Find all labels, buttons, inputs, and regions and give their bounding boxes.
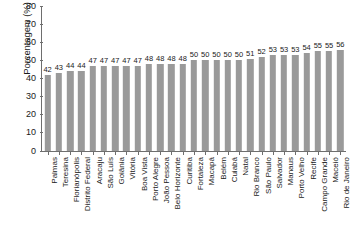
bar bbox=[303, 53, 309, 151]
y-axis-tick-label: 60 bbox=[14, 38, 36, 47]
bar-value-label: 48 bbox=[145, 55, 153, 63]
x-axis-tick-label: Natal bbox=[242, 157, 250, 176]
bar bbox=[236, 60, 242, 151]
bar bbox=[225, 60, 231, 151]
x-axis-tick-mark bbox=[194, 152, 195, 155]
x-axis-tick-mark bbox=[205, 152, 206, 155]
bar-value-label: 54 bbox=[302, 44, 310, 52]
bar bbox=[134, 66, 140, 151]
y-axis-tick-label: 70 bbox=[14, 20, 36, 29]
bar bbox=[315, 51, 321, 151]
bar-value-label: 53 bbox=[291, 46, 299, 54]
bar bbox=[191, 60, 197, 151]
x-axis-tick-mark bbox=[273, 152, 274, 155]
bar-value-label: 56 bbox=[336, 41, 344, 49]
bar-value-label: 44 bbox=[77, 62, 85, 70]
bar-slot: 47 bbox=[110, 6, 121, 151]
bar bbox=[202, 60, 208, 151]
x-axis-tick-mark bbox=[149, 152, 150, 155]
y-axis-tick-label: 30 bbox=[14, 92, 36, 101]
x-axis-tick-label: Belém bbox=[220, 157, 228, 180]
bar-slot: 48 bbox=[143, 6, 154, 151]
x-axis-tick-label: Recife bbox=[310, 157, 318, 180]
x-axis-tick-mark bbox=[81, 152, 82, 155]
bar-value-label: 53 bbox=[269, 46, 277, 54]
bar bbox=[180, 64, 186, 151]
y-axis-ticks: 01020304050607080 bbox=[18, 6, 40, 151]
bar bbox=[44, 75, 50, 151]
bar bbox=[89, 66, 95, 151]
bar bbox=[213, 60, 219, 151]
bar-slot: 48 bbox=[155, 6, 166, 151]
x-axis-tick-label: Salvador bbox=[276, 157, 284, 189]
bar-value-label: 52 bbox=[257, 48, 265, 56]
x-axis-tick-mark bbox=[70, 152, 71, 155]
x-axis-labels: PalmasTeresinaFlorianópolisDistrito Fede… bbox=[42, 152, 346, 242]
x-axis-tick-mark bbox=[295, 152, 296, 155]
y-axis-tick-label: 50 bbox=[14, 56, 36, 65]
x-axis-tick-label: Belo Horizonte bbox=[174, 157, 182, 209]
x-axis-tick-label: São Luís bbox=[107, 157, 115, 189]
x-axis-tick-label: Rio de Janeiro bbox=[343, 157, 351, 209]
bar-slot: 50 bbox=[200, 6, 211, 151]
bar bbox=[78, 71, 84, 151]
y-axis-tick-label: 10 bbox=[14, 128, 36, 137]
bar bbox=[281, 55, 287, 151]
bar-slot: 56 bbox=[335, 6, 346, 151]
bar-slot: 54 bbox=[301, 6, 312, 151]
bar bbox=[123, 66, 129, 151]
x-axis-tick-mark bbox=[115, 152, 116, 155]
bar-slot: 44 bbox=[76, 6, 87, 151]
x-axis-tick-mark bbox=[183, 152, 184, 155]
x-axis-tick-mark bbox=[284, 152, 285, 155]
bar bbox=[337, 50, 343, 152]
bar bbox=[157, 64, 163, 151]
bar bbox=[56, 73, 62, 151]
x-axis-tick-label: Porto Velho bbox=[298, 157, 306, 198]
x-axis-tick-label: Porto Alegre bbox=[152, 157, 160, 201]
x-axis-tick-mark bbox=[160, 152, 161, 155]
y-axis-tick-label: 40 bbox=[14, 74, 36, 83]
bar-value-label: 48 bbox=[156, 55, 164, 63]
x-axis-tick-mark bbox=[48, 152, 49, 155]
bar-slot: 42 bbox=[42, 6, 53, 151]
x-axis-tick-label: Manaus bbox=[287, 157, 295, 185]
bar bbox=[326, 51, 332, 151]
x-axis-tick-label: Boa Vista bbox=[141, 157, 149, 191]
x-axis-tick-mark bbox=[340, 152, 341, 155]
bar-slot: 53 bbox=[290, 6, 301, 151]
x-axis-tick-mark bbox=[239, 152, 240, 155]
bar-slot: 47 bbox=[87, 6, 98, 151]
x-axis-tick-label: Rio Branco bbox=[253, 157, 261, 197]
y-axis-tick-label: 80 bbox=[14, 2, 36, 11]
bar-slot: 47 bbox=[98, 6, 109, 151]
x-axis-tick-label: Distrito Federal bbox=[84, 157, 92, 211]
bar-value-label: 43 bbox=[55, 64, 63, 72]
bar-slot: 55 bbox=[323, 6, 334, 151]
x-axis-tick-label: Florianópolis bbox=[73, 157, 81, 202]
x-axis-tick-label: Maceió bbox=[332, 157, 340, 183]
x-axis-tick-label: Vitória bbox=[129, 157, 137, 180]
bar-value-label: 55 bbox=[325, 42, 333, 50]
bar-value-label: 51 bbox=[246, 50, 254, 58]
bar-slot: 51 bbox=[245, 6, 256, 151]
x-axis-tick-mark bbox=[93, 152, 94, 155]
bar-value-label: 47 bbox=[88, 57, 96, 65]
x-axis-tick-label: Curitiba bbox=[186, 157, 194, 185]
bar-slot: 53 bbox=[267, 6, 278, 151]
x-axis-tick-label: Goiânia bbox=[118, 157, 126, 185]
x-axis-tick-mark bbox=[171, 152, 172, 155]
bar bbox=[168, 64, 174, 151]
x-axis-tick-mark bbox=[318, 152, 319, 155]
x-axis-tick-label: Fortaleza bbox=[197, 157, 205, 190]
bar bbox=[258, 57, 264, 151]
bar bbox=[67, 71, 73, 151]
bar bbox=[146, 64, 152, 151]
bar-slot: 44 bbox=[65, 6, 76, 151]
bar-slot: 50 bbox=[188, 6, 199, 151]
bar-value-label: 55 bbox=[314, 42, 322, 50]
bar-value-label: 53 bbox=[280, 46, 288, 54]
bar-value-label: 50 bbox=[190, 51, 198, 59]
y-axis-tick-label: 20 bbox=[14, 110, 36, 119]
